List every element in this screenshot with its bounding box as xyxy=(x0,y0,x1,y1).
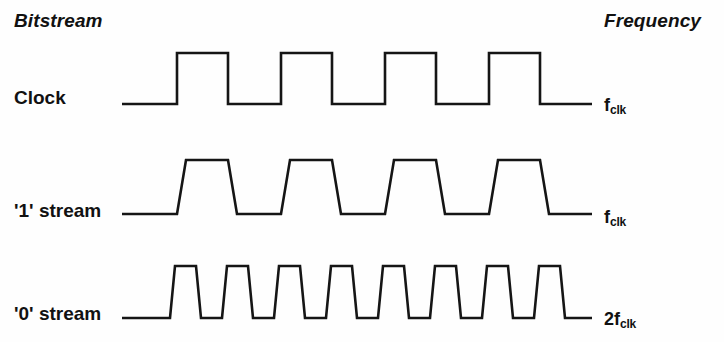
waveform-trace-zero-stream xyxy=(122,266,592,318)
waveform-canvas xyxy=(0,0,724,342)
waveform-trace-one-stream xyxy=(122,160,592,214)
waveform-trace-clock xyxy=(122,53,592,104)
waveform-diagram: Bitstream Frequency Clock '1' stream '0'… xyxy=(0,0,724,342)
